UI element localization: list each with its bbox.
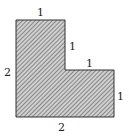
l-shaped-region: [16, 20, 114, 117]
label-bottom: 2: [58, 121, 65, 134]
label-left: 2: [4, 66, 11, 79]
label-top: 1: [37, 6, 44, 19]
l-shape-diagram: 1 1 1 1 2 2: [0, 0, 129, 139]
label-inner-horizontal: 1: [86, 57, 93, 70]
label-inner-vertical: 1: [69, 40, 76, 53]
label-right: 1: [117, 90, 124, 103]
